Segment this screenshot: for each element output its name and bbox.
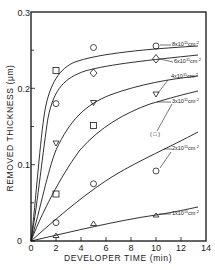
series-annotations: 8x1011cm-2 6x1011cm-2 4x1011cm-2 3x1011c… bbox=[171, 40, 202, 216]
square-marker bbox=[53, 68, 59, 74]
annotation-1e11: 1x1011cm-2 bbox=[172, 209, 200, 216]
x-tick-label: 4 bbox=[78, 243, 83, 253]
removed-thickness-chart: 0 0.1 0.2 0.3 0 2 4 6 8 10 12 14 DEVELOP… bbox=[0, 0, 215, 270]
x-tick-label: 14 bbox=[201, 243, 211, 253]
triangle-up-marker bbox=[91, 221, 97, 226]
diamond-marker bbox=[153, 55, 160, 64]
annotation-2e11: 2x1011cm-2 bbox=[172, 144, 200, 151]
curve-3e11 bbox=[31, 91, 198, 241]
annotation-3e11: 3x1011cm-2 bbox=[172, 97, 200, 104]
circle-marker bbox=[153, 168, 159, 174]
circle-marker bbox=[91, 45, 97, 51]
y-axis: 0 0.1 0.2 0.3 bbox=[17, 8, 35, 246]
circle-marker bbox=[153, 43, 159, 49]
y-axis-title: REMOVED THICKNESS (μm) bbox=[5, 64, 15, 191]
x-tick-label: 0 bbox=[28, 243, 33, 253]
x-axis-title: DEVELOPER TIME (min) bbox=[64, 253, 172, 263]
bracketed-point-note: ( □ ) bbox=[150, 131, 160, 137]
circle-marker bbox=[91, 181, 97, 187]
x-tick-label: 2 bbox=[53, 243, 58, 253]
leader-lines bbox=[157, 45, 173, 214]
y-tick-label: 0 bbox=[17, 236, 22, 246]
y-tick-label: 0.2 bbox=[17, 84, 30, 94]
x-axis: 0 2 4 6 8 10 12 14 bbox=[28, 237, 211, 253]
x-tick-label: 6 bbox=[103, 243, 108, 253]
diamond-marker bbox=[90, 69, 97, 77]
x-tick-label: 10 bbox=[151, 243, 161, 253]
y-tick-label: 0.3 bbox=[17, 8, 30, 18]
y-tick-label: 0.1 bbox=[17, 160, 30, 170]
annotation-6e11: 6x1011cm-2 bbox=[174, 57, 202, 64]
x-tick-label: 12 bbox=[176, 243, 186, 253]
x-tick-label: 8 bbox=[128, 243, 133, 253]
square-marker bbox=[91, 123, 97, 129]
circle-marker bbox=[53, 101, 59, 107]
circle-marker bbox=[53, 220, 59, 226]
